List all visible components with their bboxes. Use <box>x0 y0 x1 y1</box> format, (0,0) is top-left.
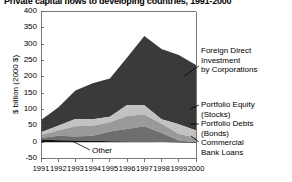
x-tick-label: 2000 <box>184 164 208 173</box>
annotation-portfolio-debts: Portfolio Debts(Bonds) <box>201 119 253 138</box>
y-tick-label: 200 <box>11 71 37 80</box>
annotation-line: Commercial <box>201 138 244 148</box>
annotation-portfolio-equity: Portfolio Equity(Stocks) <box>201 100 255 119</box>
chart-plot-area <box>0 0 292 182</box>
annotation-line: Foreign Direct <box>201 46 257 56</box>
annotation-line: Bank Loans <box>201 148 244 158</box>
annotation-line: (Stocks) <box>201 110 255 120</box>
y-tick-label: 400 <box>11 6 37 15</box>
y-tick-label: 50 <box>11 120 37 129</box>
annotation-line: by Corporations <box>201 65 257 75</box>
annotation-line: Other <box>92 146 112 156</box>
y-tick-label: 350 <box>11 22 37 31</box>
y-tick-label: 100 <box>11 104 37 113</box>
annotation-other: Other <box>92 146 112 156</box>
annotation-line: Portfolio Equity <box>201 100 255 110</box>
y-tick-label: 250 <box>11 55 37 64</box>
stacked-areas <box>41 36 196 143</box>
leader-line <box>72 141 90 150</box>
y-tick-label: 150 <box>11 88 37 97</box>
annotation-line: (Bonds) <box>201 129 253 139</box>
y-tick-label: -50 <box>11 153 37 162</box>
y-tick-label: 300 <box>11 39 37 48</box>
annotation-foreign-direct-investment: Foreign DirectInvestmentby Corporations <box>201 46 257 75</box>
y-tick-label: 0 <box>11 137 37 146</box>
annotation-commercial-bank-loans: CommercialBank Loans <box>201 138 244 157</box>
annotation-line: Portfolio Debts <box>201 119 253 129</box>
chart-figure: Private capital flows to developing coun… <box>0 0 292 182</box>
annotation-line: Investment <box>201 56 257 66</box>
